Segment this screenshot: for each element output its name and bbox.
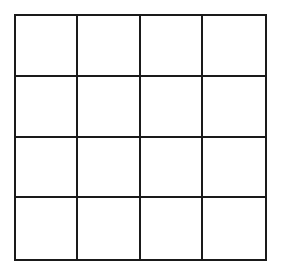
grid-cell (203, 198, 265, 259)
grid-cell (203, 77, 265, 138)
grid-cell (78, 138, 140, 199)
grid-cell (78, 198, 140, 259)
grid-cell (16, 138, 78, 199)
grid-cell (141, 16, 203, 77)
grid-cell (16, 77, 78, 138)
grid-cell (203, 16, 265, 77)
grid-cell (141, 77, 203, 138)
empty-4x4-grid (14, 14, 267, 261)
grid-cell (16, 16, 78, 77)
grid-cell (78, 16, 140, 77)
grid-cell (203, 138, 265, 199)
grid-cell (141, 198, 203, 259)
grid-cell (141, 138, 203, 199)
grid-cell (16, 198, 78, 259)
grid-cell (78, 77, 140, 138)
